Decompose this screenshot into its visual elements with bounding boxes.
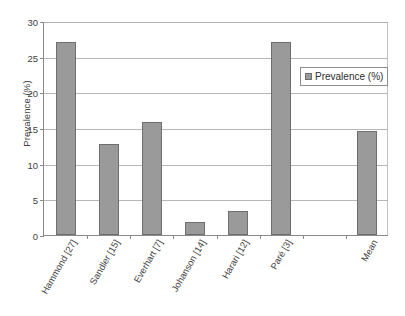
bar-chart: Prevalence (%) 051015202530 Hammond [27]… — [0, 0, 405, 316]
x-axis-tick-label: Sandler [15] — [88, 238, 122, 286]
x-axis-tick-label: Hammond [27] — [39, 238, 78, 296]
y-axis-tick-label: 5 — [16, 195, 38, 206]
bar — [99, 144, 119, 235]
y-axis-tick-label: 20 — [16, 88, 38, 99]
x-axis-tick-label: Johanson [14] — [170, 238, 208, 294]
bar — [185, 222, 205, 235]
y-axis-tick-label: 30 — [16, 17, 38, 28]
gridline — [44, 165, 388, 166]
legend-label-prevalence: Prevalence (%) — [315, 71, 383, 82]
bar — [56, 42, 76, 235]
bar — [142, 122, 162, 235]
y-axis-tick — [40, 200, 44, 201]
x-axis-tick-label: Everhart [7] — [132, 238, 165, 285]
x-axis-tick-label: Mean — [360, 238, 380, 263]
bar — [271, 42, 291, 235]
bar — [228, 211, 248, 235]
y-axis-tick-label: 10 — [16, 159, 38, 170]
x-axis-tick-label: Paré [3] — [269, 238, 294, 271]
x-axis-tick-label: Harari [12] — [220, 238, 250, 281]
y-axis-tick — [40, 22, 44, 23]
gridline — [44, 58, 388, 59]
plot-area — [43, 22, 388, 236]
y-axis-tick-label: 0 — [16, 231, 38, 242]
gridline — [44, 22, 388, 23]
x-axis-tick-labels: Hammond [27]Sandler [15]Everhart [7]Joha… — [43, 238, 388, 316]
gridline — [44, 93, 388, 94]
legend-swatch-prevalence — [305, 73, 312, 80]
bar — [357, 131, 377, 235]
y-axis-tick-labels: 051015202530 — [14, 0, 38, 316]
y-axis-tick — [40, 236, 44, 237]
y-axis-tick-label: 15 — [16, 124, 38, 135]
y-axis-tick-label: 25 — [16, 52, 38, 63]
y-axis-tick — [40, 58, 44, 59]
gridline — [44, 129, 388, 130]
y-axis-tick — [40, 165, 44, 166]
y-axis-tick — [40, 129, 44, 130]
y-axis-tick — [40, 93, 44, 94]
chart-legend: Prevalence (%) — [300, 67, 388, 86]
gridline — [44, 200, 388, 201]
